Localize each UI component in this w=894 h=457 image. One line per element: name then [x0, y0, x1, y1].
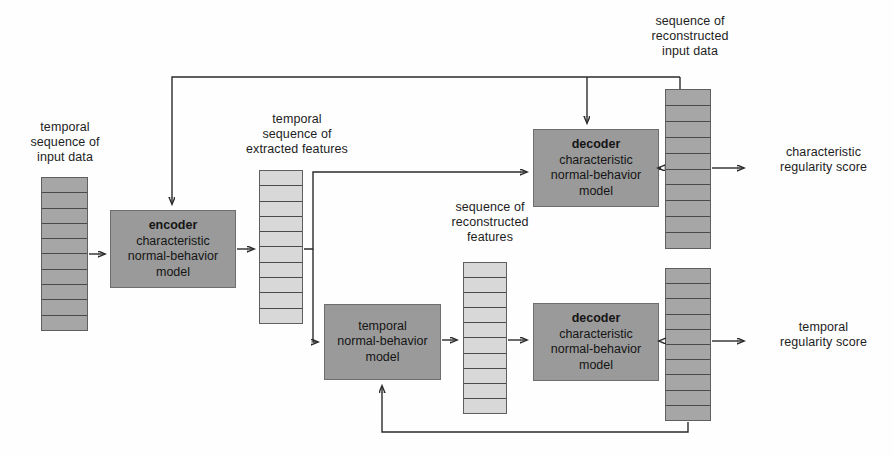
- box-decoder-bottom[interactable]: decoder characteristic normal-behavior m…: [533, 303, 659, 381]
- column-input-data: [41, 177, 88, 331]
- box-temporal-model-line1: temporal: [358, 319, 407, 335]
- wire-temporal-feedback-loop: [382, 386, 688, 432]
- box-decoder-bottom-line3: model: [579, 358, 613, 374]
- box-decoder-top-line2: normal-behavior: [551, 168, 641, 184]
- column-segment: [464, 293, 506, 308]
- box-temporal-model-line3: model: [365, 350, 399, 366]
- column-reconstructed-features: [463, 262, 507, 414]
- box-encoder-title: encoder: [149, 218, 198, 234]
- box-decoder-top-line3: model: [579, 184, 613, 200]
- column-segment: [464, 308, 506, 323]
- column-segment: [666, 299, 710, 314]
- column-segment: [666, 360, 710, 375]
- column-segment: [464, 354, 506, 369]
- column-segment: [42, 178, 87, 193]
- box-decoder-top[interactable]: decoder characteristic normal-behavior m…: [533, 129, 659, 207]
- column-segment: [464, 263, 506, 278]
- column-segment: [260, 309, 302, 323]
- box-decoder-bottom-line2: normal-behavior: [551, 342, 641, 358]
- column-segment: [42, 239, 87, 254]
- column-segment: [666, 233, 710, 248]
- column-segment: [260, 247, 302, 262]
- box-temporal-model[interactable]: temporal normal-behavior model: [324, 304, 441, 380]
- column-reconstructed-input: [665, 89, 711, 249]
- label-characteristic-regularity-score: characteristic regularity score: [756, 145, 891, 175]
- diagram-canvas: temporal sequence of input data temporal…: [0, 0, 894, 457]
- column-segment: [666, 391, 710, 406]
- column-segment: [42, 224, 87, 239]
- column-segment: [464, 384, 506, 399]
- column-temporal-output: [665, 268, 711, 421]
- column-segment: [464, 323, 506, 338]
- box-encoder-line1: characteristic: [136, 234, 210, 250]
- column-segment: [260, 278, 302, 293]
- column-segment: [42, 209, 87, 224]
- box-encoder-line3: model: [156, 265, 190, 281]
- label-reconstructed-input: sequence of reconstructed input data: [615, 14, 765, 59]
- column-segment: [666, 185, 710, 201]
- box-decoder-top-title: decoder: [572, 137, 621, 153]
- column-segment: [464, 338, 506, 353]
- box-encoder[interactable]: encoder characteristic normal-behavior m…: [110, 210, 236, 288]
- column-segment: [260, 263, 302, 278]
- column-segment: [666, 138, 710, 154]
- column-segment: [464, 399, 506, 413]
- column-extracted-features: [259, 170, 303, 324]
- column-segment: [42, 254, 87, 269]
- column-segment: [666, 106, 710, 122]
- column-segment: [666, 90, 710, 106]
- column-segment: [666, 330, 710, 345]
- box-temporal-model-line2: normal-behavior: [337, 334, 427, 350]
- column-segment: [666, 284, 710, 299]
- column-segment: [42, 300, 87, 315]
- column-segment: [42, 316, 87, 330]
- column-segment: [42, 270, 87, 285]
- label-temporal-regularity-score: temporal regularity score: [756, 320, 891, 350]
- label-input-sequence: temporal sequence of input data: [6, 120, 124, 165]
- column-segment: [666, 375, 710, 390]
- column-segment: [260, 202, 302, 217]
- label-extracted-features: temporal sequence of extracted features: [222, 112, 372, 157]
- box-decoder-bottom-title: decoder: [572, 311, 621, 327]
- column-segment: [666, 154, 710, 170]
- column-segment: [464, 369, 506, 384]
- column-segment: [666, 122, 710, 138]
- wire-features-branch-to-temporal-model: [313, 249, 318, 342]
- column-segment: [42, 193, 87, 208]
- column-segment: [260, 186, 302, 201]
- column-segment: [464, 278, 506, 293]
- column-segment: [260, 232, 302, 247]
- column-segment: [666, 217, 710, 233]
- column-segment: [666, 406, 710, 420]
- column-segment: [666, 269, 710, 284]
- column-segment: [260, 293, 302, 308]
- box-decoder-bottom-line1: characteristic: [559, 327, 633, 343]
- column-segment: [666, 170, 710, 186]
- column-segment: [260, 217, 302, 232]
- box-decoder-top-line1: characteristic: [559, 153, 633, 169]
- column-segment: [666, 315, 710, 330]
- column-segment: [666, 345, 710, 360]
- column-segment: [42, 285, 87, 300]
- column-segment: [260, 171, 302, 186]
- box-encoder-line2: normal-behavior: [128, 249, 218, 265]
- column-segment: [666, 201, 710, 217]
